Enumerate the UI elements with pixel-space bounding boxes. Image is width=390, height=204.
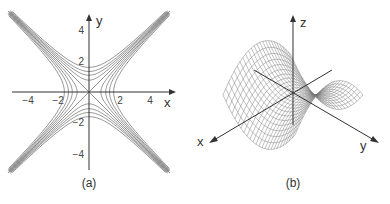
x-axis-3d-arrow-icon — [209, 136, 218, 143]
panel-a-contour-plot: −4 −2 2 4 4 2 −2 −4 x y (a) — [8, 11, 176, 190]
y-tick-neg2: −2 — [73, 117, 85, 128]
y-axis-arrow-icon — [86, 14, 92, 21]
y-axis-3d-arrow-icon — [370, 136, 379, 143]
y-tick-4: 4 — [78, 25, 84, 36]
panel-b-saddle-surface: z x y (b) — [197, 15, 379, 190]
x-tick-neg2: −2 — [52, 95, 64, 106]
caption-b: (b) — [286, 176, 301, 190]
z-axis-arrow-icon — [290, 15, 296, 22]
x-tick-2: 2 — [117, 95, 123, 106]
y-axis-label: y — [96, 13, 103, 28]
x-axis-label-3d: x — [197, 134, 204, 149]
z-axis-label: z — [300, 15, 307, 30]
y-axis-label-3d: y — [360, 138, 367, 153]
y-tick-neg4: −4 — [73, 149, 85, 160]
x-tick-neg4: −4 — [22, 95, 34, 106]
x-tick-4: 4 — [147, 95, 153, 106]
caption-a: (a) — [82, 176, 97, 190]
x-axis-label: x — [164, 95, 171, 110]
y-tick-2: 2 — [78, 56, 84, 67]
figure: −4 −2 2 4 4 2 −2 −4 x y (a) z x y (b) — [0, 0, 390, 204]
